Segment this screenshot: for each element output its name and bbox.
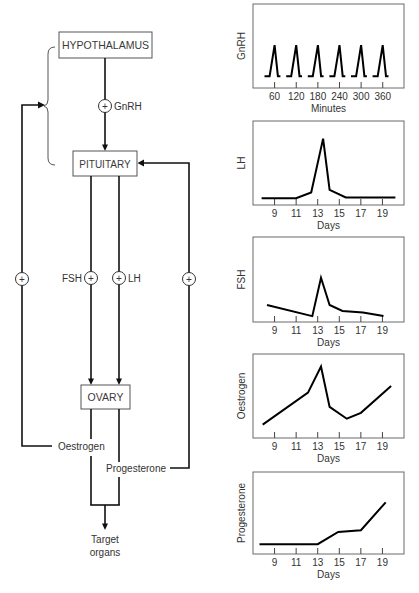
ovary-node: OVARY [81,385,130,409]
x-tick-label: 360 [374,91,391,102]
x-tick-label: 11 [291,441,302,452]
arrow-down-icon [116,379,122,386]
x-tick-label: 19 [377,441,389,452]
fsh-stimulation-marker: + [85,272,98,285]
x-tick-label: 13 [312,557,324,568]
fsh-label: FSH [62,273,82,284]
hypothalamus-node: HYPOTHALAMUS [59,32,152,58]
x-tick-label: 19 [377,557,389,568]
x-tick-label: 17 [355,325,367,336]
x-tick-label: 9 [272,208,278,219]
target-label-line1: Target [91,534,119,545]
progesterone-plot-area [253,472,404,554]
pituitary-label: PITUITARY [79,159,131,170]
brace-icon [44,47,55,165]
x-tick-label: 180 [310,91,327,102]
plus-icon: + [186,274,192,285]
oestrogen-feedback-marker: + [16,273,29,286]
progesterone-label: Progesterone [106,463,166,474]
target-label-line2: organs [90,547,121,558]
x-axis-label: Days [317,337,340,348]
x-tick-label: 9 [272,441,278,452]
x-tick-label: 13 [312,325,324,336]
arrow-right-icon [38,102,45,109]
arrow-down-icon [102,145,108,152]
oestrogen-label: Oestrogen [58,441,105,452]
x-tick-label: 300 [353,91,370,102]
gnrh-label: GnRH [114,101,142,112]
x-tick-label: 11 [291,325,302,336]
x-tick-label: 13 [312,208,324,219]
x-tick-label: 60 [269,91,281,102]
y-axis-label: Oestrogen [236,373,247,420]
figure: HYPOTHALAMUS + GnRH PITUITARY + + [0,0,419,593]
hormone-charts: 60120180240300360MinutesGnRH 91113151719… [236,4,404,580]
lh-chart: 91113151719DaysLH [236,121,404,231]
arrow-down-icon [102,524,108,531]
progesterone-chart: 91113151719DaysProgesterone [236,472,404,580]
y-axis-label: GnRH [236,32,247,60]
gnrh-chart: 60120180240300360MinutesGnRH [236,4,404,114]
x-tick-label: 240 [331,91,348,102]
plus-icon: + [116,273,122,284]
plus-icon: + [88,273,94,284]
x-tick-label: 19 [377,325,389,336]
x-tick-label: 15 [334,441,346,452]
plus-icon: + [19,274,25,285]
arrow-left-icon [138,160,145,167]
x-tick-label: 17 [355,208,367,219]
progesterone-feedback-line [144,163,189,468]
oestrogen-plot-area [253,354,404,438]
pituitary-node: PITUITARY [73,151,137,176]
plus-icon: + [102,101,108,112]
fsh-chart: 91113151719DaysFSH [236,237,404,348]
fsh-plot-area [253,237,404,322]
ovary-label: OVARY [88,391,124,403]
x-tick-label: 19 [377,208,389,219]
x-tick-label: 15 [334,557,346,568]
x-tick-label: 120 [288,91,305,102]
x-tick-label: 11 [291,557,302,568]
x-tick-label: 13 [312,441,324,452]
x-tick-label: 15 [334,208,346,219]
hypothalamus-label: HYPOTHALAMUS [62,39,149,51]
x-tick-label: 9 [272,325,278,336]
lh-stimulation-marker: + [113,272,126,285]
lh-label: LH [128,273,141,284]
x-axis-label: Days [317,220,340,231]
x-axis-label: Days [317,453,340,464]
x-tick-label: 17 [355,557,367,568]
oestrogen-chart: 91113151719DaysOestrogen [236,354,404,464]
x-tick-label: 17 [355,441,367,452]
gnrh-stimulation-marker: + [99,100,112,113]
x-axis-label: Days [317,569,340,580]
lh-plot-area [253,121,404,205]
arrow-down-icon [88,379,94,386]
y-axis-label: LH [236,157,247,170]
x-tick-label: 15 [334,325,346,336]
x-axis-label: Minutes [311,103,346,114]
x-tick-label: 11 [291,208,302,219]
hormone-feedback-diagram: HYPOTHALAMUS + GnRH PITUITARY + + [16,32,196,558]
x-tick-label: 9 [272,557,278,568]
progesterone-feedback-marker: + [183,273,196,286]
y-axis-label: FSH [236,270,247,290]
y-axis-label: Progesterone [236,483,247,543]
